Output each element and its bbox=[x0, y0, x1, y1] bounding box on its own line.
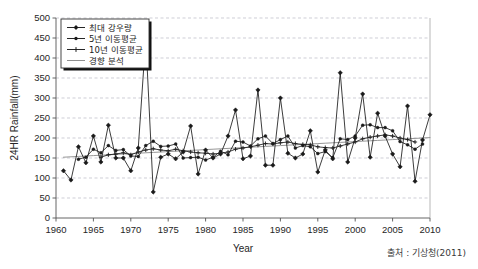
data-point-marker bbox=[242, 141, 245, 144]
data-point-marker bbox=[271, 142, 274, 145]
y-tick-label: 0 bbox=[45, 212, 50, 223]
data-point-marker bbox=[114, 149, 117, 152]
x-tick-label: 1990 bbox=[270, 224, 291, 235]
data-point-marker bbox=[316, 152, 319, 155]
data-point-marker bbox=[144, 144, 147, 147]
data-point-marker bbox=[99, 151, 102, 154]
data-point-marker bbox=[174, 143, 177, 146]
rainfall-chart-figure: 0501001502002503003504004505001960196519… bbox=[0, 0, 478, 269]
data-point-marker bbox=[204, 159, 207, 162]
data-point-marker bbox=[256, 137, 259, 140]
x-tick-label: 1980 bbox=[195, 224, 216, 235]
data-point-marker bbox=[189, 156, 192, 159]
y-tick-label: 100 bbox=[34, 172, 50, 183]
data-point-marker bbox=[399, 140, 402, 143]
data-point-marker bbox=[406, 143, 409, 146]
x-tick-label: 2000 bbox=[345, 224, 366, 235]
data-point-marker bbox=[182, 157, 185, 160]
x-tick-label: 2010 bbox=[419, 224, 440, 235]
legend-marker-dot bbox=[74, 37, 77, 40]
chart-canvas: 0501001502002503003504004505001960196519… bbox=[0, 0, 478, 269]
y-tick-label: 50 bbox=[39, 192, 50, 203]
y-tick-label: 250 bbox=[34, 112, 50, 123]
data-point-marker bbox=[227, 153, 230, 156]
y-tick-label: 200 bbox=[34, 132, 50, 143]
x-tick-label: 1995 bbox=[307, 224, 328, 235]
data-point-marker bbox=[137, 155, 140, 158]
x-axis-title: Year bbox=[233, 243, 254, 254]
y-tick-label: 500 bbox=[34, 12, 50, 23]
x-tick-label: 1965 bbox=[83, 224, 104, 235]
data-point-marker bbox=[159, 145, 162, 148]
legend-label: 5년 이동평균 bbox=[89, 34, 137, 44]
chart-legend: 최대 강우량5년 이동평균10년 이동평균경향 분석 bbox=[61, 19, 152, 71]
data-point-marker bbox=[107, 144, 110, 147]
data-point-marker bbox=[376, 126, 379, 129]
data-point-marker bbox=[339, 137, 342, 140]
source-note: 출처 : 기상청(2011) bbox=[387, 246, 466, 259]
legend-label: 경향 분석 bbox=[89, 56, 124, 66]
y-tick-label: 450 bbox=[34, 32, 50, 43]
y-tick-label: 150 bbox=[34, 152, 50, 163]
data-point-marker bbox=[294, 147, 297, 150]
x-tick-label: 1975 bbox=[158, 224, 179, 235]
data-point-marker bbox=[264, 135, 267, 138]
data-point-marker bbox=[279, 138, 282, 141]
x-tick-label: 1985 bbox=[232, 224, 253, 235]
y-tick-label: 300 bbox=[34, 92, 50, 103]
data-point-marker bbox=[384, 126, 387, 129]
data-point-marker bbox=[234, 140, 237, 143]
data-point-marker bbox=[286, 135, 289, 138]
data-point-marker bbox=[197, 156, 200, 159]
x-tick-label: 1960 bbox=[45, 224, 66, 235]
y-tick-label: 350 bbox=[34, 72, 50, 83]
legend-label: 최대 강우량 bbox=[89, 23, 132, 33]
data-point-marker bbox=[301, 144, 304, 147]
data-point-marker bbox=[414, 148, 417, 151]
data-point-marker bbox=[346, 138, 349, 141]
data-point-marker bbox=[369, 123, 372, 126]
y-axis-title: 24HR Rainfall(mm) bbox=[9, 75, 20, 160]
data-point-marker bbox=[361, 124, 364, 127]
y-tick-label: 400 bbox=[34, 52, 50, 63]
x-tick-label: 2005 bbox=[382, 224, 403, 235]
data-point-marker bbox=[391, 129, 394, 132]
data-point-marker bbox=[122, 148, 125, 151]
x-tick-label: 1970 bbox=[120, 224, 141, 235]
data-point-marker bbox=[77, 158, 80, 161]
data-point-marker bbox=[152, 140, 155, 143]
data-point-marker bbox=[129, 155, 132, 158]
data-point-marker bbox=[309, 145, 312, 148]
data-point-marker bbox=[167, 145, 170, 148]
legend-label: 10년 이동평균 bbox=[89, 45, 143, 55]
data-point-marker bbox=[92, 148, 95, 151]
